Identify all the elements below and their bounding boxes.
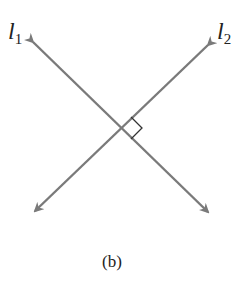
label-l1: l1 <box>8 18 22 48</box>
right-angle-marker <box>131 117 142 139</box>
perpendicular-lines-diagram <box>0 0 246 282</box>
caption: (b) <box>102 252 122 272</box>
label-l2: l2 <box>217 18 231 48</box>
